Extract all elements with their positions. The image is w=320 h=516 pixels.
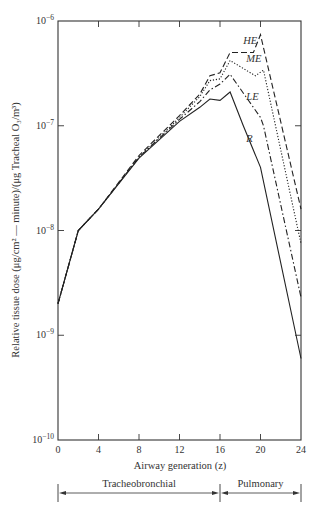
region-label-tracheobronchial: Tracheobronchial <box>102 478 176 489</box>
plot-axes <box>58 21 301 440</box>
y-tick-labels: 10−610−710−810−910−10 <box>32 13 54 445</box>
plot-frame <box>58 21 301 440</box>
x-tick-label: 8 <box>137 444 142 455</box>
curve-label-he: HE <box>242 35 258 46</box>
x-tick-label: 4 <box>96 444 101 455</box>
series-me-line <box>58 61 301 304</box>
curve-labels: HEMELER <box>242 35 262 144</box>
y-tick-label: 10−7 <box>36 118 54 131</box>
x-tick-label: 20 <box>256 444 266 455</box>
curve-label-le: LE <box>245 91 259 102</box>
y-tick-label: 10−8 <box>36 223 54 236</box>
curve-label-r: R <box>245 133 253 144</box>
y-axis-title: Relative tissue dose (μg/cm² — minute)/(… <box>10 102 22 358</box>
region-brackets: TracheobronchialPulmonary <box>58 478 301 502</box>
x-tick-label: 24 <box>296 444 306 455</box>
y-tick-label: 10−6 <box>36 13 54 26</box>
region-label-pulmonary: Pulmonary <box>237 478 284 489</box>
x-tick-label: 0 <box>56 444 61 455</box>
x-tick-labels: 04812162024 <box>56 444 307 455</box>
y-tick-label: 10−9 <box>36 327 54 340</box>
x-tick-label: 12 <box>175 444 185 455</box>
x-axis-title: Airway generation (z) <box>134 460 227 472</box>
chart: HEMELER 10−610−710−810−910−10 0481216202… <box>0 0 320 516</box>
x-tick-label: 16 <box>215 444 225 455</box>
y-tick-label: 10−10 <box>32 432 54 445</box>
plot-series <box>58 35 301 359</box>
curve-label-me: ME <box>245 53 262 64</box>
